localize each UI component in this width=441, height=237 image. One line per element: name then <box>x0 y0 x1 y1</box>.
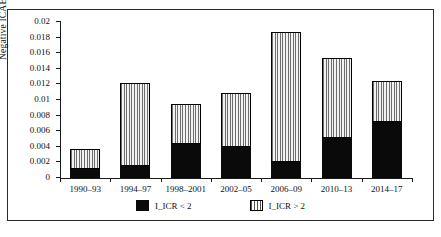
y-axis-tick: 0.008 <box>56 115 60 116</box>
bar-segment[interactable] <box>70 169 100 178</box>
y-axis-tick: 0.018 <box>56 37 60 38</box>
y-axis-tick: 0.02 <box>56 21 60 22</box>
y-axis-tick: 0.014 <box>56 68 60 69</box>
x-axis-tick <box>110 178 111 182</box>
x-axis-category-label: 1994–97 <box>120 184 152 194</box>
y-axis-tick: 0.01 <box>56 99 60 100</box>
x-axis-tick <box>311 178 312 182</box>
bar-segment[interactable] <box>221 147 251 178</box>
x-axis-category-label: 2010–13 <box>321 184 353 194</box>
bar-segment[interactable] <box>322 58 352 138</box>
x-axis-category-label: 2014–17 <box>371 184 403 194</box>
y-axis-tick-label: 0.006 <box>30 125 50 135</box>
plot-area: 00.0020.0040.0060.0080.010.0120.0140.016… <box>60 22 412 178</box>
legend-item-icr-lt-2: I_ICR < 2 <box>136 200 192 211</box>
y-axis-tick: 0.016 <box>56 52 60 53</box>
x-axis-tick <box>161 178 162 182</box>
bar-segment[interactable] <box>221 93 251 147</box>
bar-segment[interactable] <box>372 81 402 122</box>
bar-segment[interactable] <box>271 162 301 178</box>
y-axis-tick-label: 0.002 <box>30 156 50 166</box>
y-axis-title: Negative ICAE <box>0 0 8 60</box>
y-axis-tick-label: 0.018 <box>30 32 50 42</box>
x-axis-tick <box>362 178 363 182</box>
bar-segment[interactable] <box>120 166 150 178</box>
chart-figure: Negative ICAE 00.0020.0040.0060.0080.010… <box>0 0 441 237</box>
x-axis-category-label: 2006–09 <box>271 184 303 194</box>
y-axis-tick-label: 0.004 <box>30 141 50 151</box>
y-axis-tick-label: 0.02 <box>34 16 50 26</box>
bar-segment[interactable] <box>271 32 301 161</box>
bar-segment[interactable] <box>171 104 201 145</box>
bar-segment[interactable] <box>171 144 201 178</box>
legend-label-icr-gt-2: I_ICR > 2 <box>269 201 306 211</box>
x-axis-tick <box>60 178 61 182</box>
legend-swatch-solid-icon <box>136 200 149 211</box>
y-axis-tick-label: 0.014 <box>30 63 50 73</box>
legend-label-icr-lt-2: I_ICR < 2 <box>155 201 192 211</box>
y-axis-tick: 0.004 <box>56 146 60 147</box>
x-axis-category-label: 1998–2001 <box>165 184 206 194</box>
bar-segment[interactable] <box>70 149 100 169</box>
bar-segment[interactable] <box>120 83 150 166</box>
x-axis-tick <box>412 178 413 182</box>
x-axis-category-label: 2002–05 <box>220 184 252 194</box>
y-axis-tick: 0.012 <box>56 83 60 84</box>
y-axis-tick-label: 0.008 <box>30 110 50 120</box>
legend-item-icr-gt-2: I_ICR > 2 <box>250 200 306 211</box>
x-axis-tick <box>261 178 262 182</box>
bar-segment[interactable] <box>322 138 352 178</box>
chart-legend: I_ICR < 2 I_ICR > 2 <box>7 200 434 211</box>
y-axis-tick-label: 0 <box>46 172 51 182</box>
x-axis-line <box>60 178 413 179</box>
x-axis-tick <box>211 178 212 182</box>
y-axis-tick-label: 0.016 <box>30 47 50 57</box>
bar-segment[interactable] <box>372 122 402 178</box>
y-axis-tick-label: 0.01 <box>34 94 50 104</box>
y-axis-tick-label: 0.012 <box>30 78 50 88</box>
legend-swatch-striped-icon <box>250 200 263 211</box>
x-axis-category-label: 1990–93 <box>69 184 101 194</box>
y-axis-tick: 0.002 <box>56 161 60 162</box>
y-axis-tick: 0.006 <box>56 130 60 131</box>
